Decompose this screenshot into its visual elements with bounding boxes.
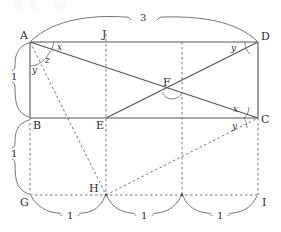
brace-bottom2-right: [157, 196, 181, 213]
vertex-label-E: E: [96, 120, 104, 131]
angle-label-A-z: z: [45, 56, 50, 65]
brace-top-right-arm: [164, 17, 257, 41]
vertex-label-G: G: [20, 197, 29, 208]
figure-canvas: [0, 0, 281, 232]
measure-label-bottom-2: 1: [141, 211, 147, 221]
brace-bottom3-tip-left: [207, 213, 212, 216]
brace-bottom1-tip-right: [78, 213, 83, 216]
brace-bottom1-tip-left: [57, 213, 62, 216]
brace-bottom1-right: [83, 196, 105, 213]
vertex-label-D: D: [261, 31, 270, 42]
brace-bottom1-left: [31, 196, 57, 213]
vertex-label-C: C: [261, 114, 269, 125]
brace-left-lower-top: [15, 120, 29, 143]
point-H-marker: [105, 194, 108, 197]
brace-top-left-tip: [124, 17, 131, 20]
measure-label-bottom-1: 1: [67, 211, 73, 221]
vertex-label-B: B: [33, 120, 41, 131]
geometry-figure: A B C D E F G H I J x z y y x y 3 1 1 1 …: [0, 0, 281, 232]
brace-top-right-tip: [157, 17, 164, 20]
brace-bottom3-tip-right: [228, 213, 233, 216]
vertex-label-H: H: [89, 183, 99, 194]
brace-left-upper-tip-bottom: [12, 82, 15, 87]
brace-left-lower-bottom: [15, 164, 29, 194]
angle-arc-D-y: [245, 42, 250, 54]
brace-left-upper-top: [15, 43, 29, 66]
segment-AC: [30, 42, 258, 118]
angle-label-A-x: x: [57, 43, 62, 52]
angle-label-C-x: x: [233, 105, 238, 114]
brace-bottom2-tip-left: [131, 213, 136, 216]
angle-label-A-y: y: [32, 66, 37, 75]
measure-label-left-upper: 1: [11, 72, 17, 82]
angle-arc-C-x: [244, 107, 249, 118]
angle-arc-C-y: [244, 118, 247, 128]
brace-bottom2-tip-right: [152, 213, 157, 216]
brace-left-lower-tip-bottom: [12, 159, 15, 164]
measure-label-bottom-3: 1: [217, 211, 223, 221]
brace-top-left-arm: [31, 16, 124, 41]
brace-bottom2-left: [107, 196, 131, 213]
brace-left-upper-bottom: [15, 87, 29, 117]
brace-bottom3-right: [233, 196, 257, 213]
brace-bottom3-left: [183, 196, 207, 213]
vertex-label-J: J: [102, 29, 106, 40]
angle-label-C-y: y: [232, 122, 237, 131]
measure-label-top-span: 3: [140, 13, 146, 23]
angle-arc-F: [162, 92, 182, 99]
vertex-label-F: F: [163, 77, 171, 88]
angle-label-D-y: y: [231, 44, 236, 53]
point-bottom-mid-marker: [181, 194, 184, 197]
vertex-label-I: I: [262, 197, 266, 208]
vertex-label-A: A: [20, 30, 28, 41]
measure-label-left-lower: 1: [11, 149, 17, 159]
